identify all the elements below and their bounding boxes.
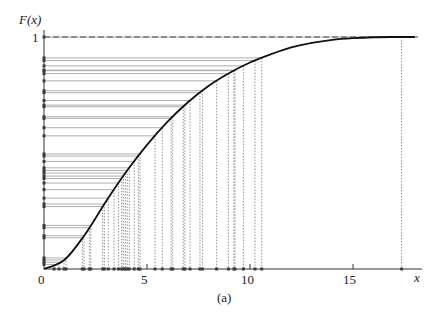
x-tick-0-label: 0 bbox=[38, 273, 45, 286]
x-tick-15-label: 15 bbox=[343, 273, 356, 286]
x-tick-5-label: 5 bbox=[141, 273, 148, 286]
x-tick-10-label: 10 bbox=[241, 273, 254, 286]
y-axis-label: F(x) bbox=[19, 13, 41, 26]
figure-caption: (a) bbox=[217, 291, 231, 304]
cdf-curve bbox=[44, 37, 415, 269]
sample-horizontal-lines bbox=[43, 36, 402, 266]
cdf-chart bbox=[0, 0, 442, 316]
cdf-curve-path bbox=[44, 37, 415, 269]
x-axis-label: x bbox=[414, 271, 420, 284]
y-tick-1-label: 1 bbox=[32, 31, 39, 44]
